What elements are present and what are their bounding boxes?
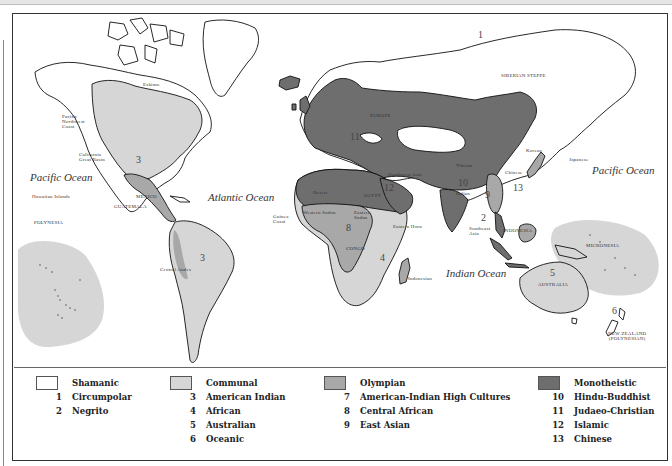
legend-item: 5Australian (174, 420, 256, 430)
legend-swatch-olympian (324, 376, 346, 390)
legend-item: 8Central African (328, 406, 433, 416)
label-egypt: EGYPT (364, 193, 381, 198)
legend-item: 13Chinese (542, 434, 612, 444)
legend-item: 10Hindu-Buddhist (542, 392, 650, 402)
legend-title: Monotheistic (574, 378, 637, 388)
label-california: California Great Basin (79, 152, 105, 162)
label-desert: Desert (313, 190, 327, 195)
british-isles (292, 96, 310, 114)
label-siberian-steppe: SIBERIAN STEPPE (501, 73, 546, 78)
label-korean: Korean (526, 148, 542, 153)
label-micronesia: MICRONESIA (586, 243, 619, 248)
label-hawaiian-islands: Hawaiian Islands (32, 194, 70, 199)
legend-item: 7American-Indian High Cultures (328, 392, 510, 402)
greenland (203, 20, 258, 96)
region-number-2: 2 (481, 213, 486, 223)
iceland (279, 76, 300, 90)
region-number-11: 11 (350, 132, 360, 142)
new-zealand-north (619, 308, 625, 320)
label-western-sudan: Western Sudan (303, 210, 336, 215)
label-polynesia: POLYNESIA (34, 220, 63, 225)
cuba (170, 196, 190, 202)
label-guatemala: GUATEMALA (114, 204, 147, 209)
region-number-13: 13 (513, 183, 523, 193)
legend-item: 6Oceanic (174, 434, 244, 444)
region-number-3-south: 3 (200, 253, 205, 263)
label-southeast-asia: Southeast Asia (469, 226, 490, 236)
region-number-1: 1 (478, 30, 483, 40)
malay-peninsula (495, 212, 505, 238)
label-atlantic-ocean: Atlantic Ocean (208, 192, 274, 203)
region-number-12: 12 (384, 183, 394, 193)
legend-title: Communal (206, 378, 258, 388)
region-number-6: 6 (612, 306, 617, 316)
label-southwest-asia: Southwest Asia (388, 172, 422, 177)
label-eastern-sudan: Eastern Sudan (354, 210, 370, 220)
legend-swatch-monotheistic (538, 376, 560, 390)
legend-swatch-communal (170, 376, 192, 390)
legend-item: 12Islamic (542, 420, 609, 430)
label-chinese: Chinese (505, 170, 523, 175)
label-indonesia: INDONESIA (503, 228, 532, 233)
label-indonesian: Indonesian (408, 276, 432, 281)
region-number-3-north: 3 (136, 155, 141, 165)
region-number-5: 5 (550, 268, 555, 278)
label-new-zealand: NEW ZEALAND (POLYNESIAN) (608, 331, 646, 341)
legend-item: 11Judaeo-Christian (542, 406, 655, 416)
legend-item: 1Circumpolar (40, 392, 132, 402)
legend-title: Shamanic (72, 378, 119, 388)
label-central-andes: Central Andes (160, 267, 191, 272)
map-legend: Shamanic 1Circumpolar 2Negrito Communal … (14, 367, 666, 460)
region-number-4: 4 (380, 253, 385, 263)
label-eskimo: Eskimo (143, 82, 159, 87)
region-number-9: 9 (485, 190, 490, 200)
label-mexico: MEXICO (136, 194, 157, 199)
label-pacific-ocean-east: Pacific Ocean (592, 165, 655, 176)
label-japanese: Japanese (569, 157, 588, 162)
legend-item: 3American Indian (174, 392, 286, 402)
region-number-10: 10 (458, 178, 468, 188)
legend-item: 2Negrito (40, 406, 108, 416)
region-number-8: 8 (346, 223, 351, 233)
legend-title: Olympian (360, 378, 405, 388)
label-guinea-coast: Guinea Coast (273, 214, 289, 224)
label-pacific-northwest: Pacific Northwest Coast (62, 114, 85, 129)
polynesia-region (18, 241, 104, 347)
label-eastern-horn: Eastern Horn (393, 224, 422, 229)
label-europe: EUROPE (370, 113, 391, 118)
label-indian-ocean: Indian Ocean (446, 268, 506, 279)
label-congo: CONGO (346, 246, 365, 251)
label-australia: AUSTRALIA (538, 282, 568, 287)
legend-item: 9East Asian (328, 420, 410, 430)
label-indian: Indian (456, 191, 470, 196)
legend-swatch-shamanic (36, 376, 58, 390)
sumatra (490, 238, 512, 260)
label-tibetan: Tibetan (456, 163, 473, 168)
java (505, 263, 529, 268)
legend-item: 4African (174, 406, 241, 416)
label-pacific-ocean-west: Pacific Ocean (30, 172, 93, 183)
